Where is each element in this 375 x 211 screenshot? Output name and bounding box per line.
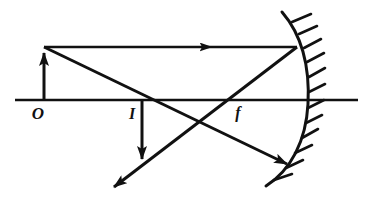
label-focal-point: f xyxy=(235,104,242,122)
label-image-point: I xyxy=(128,105,136,122)
ray-diagram-container: O I f xyxy=(0,0,375,211)
optics-ray-diagram: O I f xyxy=(0,0,375,211)
label-object-point: O xyxy=(32,104,44,123)
